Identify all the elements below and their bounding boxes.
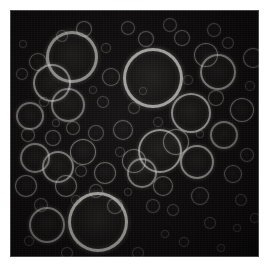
droplet (128, 102, 140, 114)
droplet (161, 230, 169, 238)
droplet (51, 88, 85, 122)
droplet (21, 128, 35, 142)
droplet (204, 217, 216, 229)
droplet (89, 86, 97, 94)
droplet (250, 213, 259, 223)
droplet (15, 175, 37, 197)
droplet (146, 199, 160, 213)
droplet (107, 198, 123, 214)
droplet (101, 43, 111, 53)
droplet (194, 43, 218, 67)
droplet (29, 53, 47, 71)
droplet (52, 119, 60, 127)
droplet (70, 139, 96, 165)
droplet (210, 121, 238, 149)
droplet (121, 21, 135, 35)
droplet (88, 125, 104, 141)
droplet (45, 130, 61, 146)
droplet (66, 121, 80, 135)
droplet (163, 18, 177, 32)
droplet (113, 120, 133, 140)
droplet (208, 90, 224, 106)
droplet (56, 30, 68, 42)
droplet (233, 224, 241, 232)
droplet (174, 30, 190, 46)
droplet (75, 165, 87, 177)
droplet (16, 102, 44, 130)
droplet (183, 75, 193, 85)
droplet (123, 48, 183, 108)
droplet (19, 40, 27, 48)
droplet (20, 143, 50, 173)
droplet-layer (10, 10, 259, 257)
droplet (191, 187, 209, 205)
droplet (16, 68, 28, 80)
droplet (122, 149, 146, 173)
figure-caption (10, 258, 259, 271)
droplet (153, 117, 163, 127)
droplet (29, 207, 65, 243)
droplet (97, 96, 109, 108)
droplet (102, 68, 120, 86)
droplet (196, 130, 204, 138)
droplet (207, 23, 221, 37)
droplet (115, 147, 125, 157)
droplet (230, 98, 254, 122)
droplet (224, 165, 242, 183)
droplet (94, 162, 116, 184)
droplet (179, 237, 189, 247)
droplet (171, 93, 211, 133)
droplet (61, 247, 73, 257)
droplet (222, 37, 234, 49)
droplet (138, 31, 154, 47)
droplet (240, 148, 254, 162)
droplet (243, 48, 259, 68)
droplet (163, 129, 189, 155)
image-viewport (0, 0, 271, 271)
micrograph-figure (10, 10, 259, 257)
droplet (139, 87, 147, 95)
droplet (55, 175, 77, 197)
droplet (34, 198, 48, 212)
droplet (245, 81, 255, 91)
droplet (235, 194, 247, 206)
droplet (217, 244, 225, 252)
droplet (76, 21, 92, 37)
droplet (89, 184, 103, 198)
droplet (39, 97, 49, 107)
droplet (71, 195, 81, 205)
droplet (132, 247, 144, 257)
droplet (124, 188, 132, 196)
droplet (24, 236, 34, 246)
droplet (167, 204, 179, 216)
droplet (153, 176, 173, 196)
